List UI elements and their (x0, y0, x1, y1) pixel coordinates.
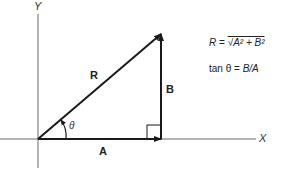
direction-equation: tan θ = B/A (209, 63, 259, 74)
angle-arc-icon (61, 120, 66, 139)
magnitude-lhs: R (209, 37, 216, 48)
vector-diagram (0, 0, 289, 178)
vector-a-label: A (99, 145, 107, 157)
direction-lhs: tan θ (209, 63, 231, 74)
magnitude-equals: = (219, 37, 225, 48)
vector-r-label: R (90, 69, 98, 81)
vector-b-label: B (166, 83, 174, 95)
magnitude-equation: R = √A² + B² (209, 37, 265, 48)
magnitude-rhs: √A² + B² (228, 37, 265, 48)
direction-rhs: B/A (243, 63, 259, 74)
direction-equals: = (234, 63, 240, 74)
right-angle-marker (147, 125, 161, 139)
theta-label: θ (69, 120, 74, 131)
vector-r (38, 34, 161, 139)
x-axis-label: X (259, 132, 266, 144)
y-axis-label: Y (34, 0, 41, 12)
